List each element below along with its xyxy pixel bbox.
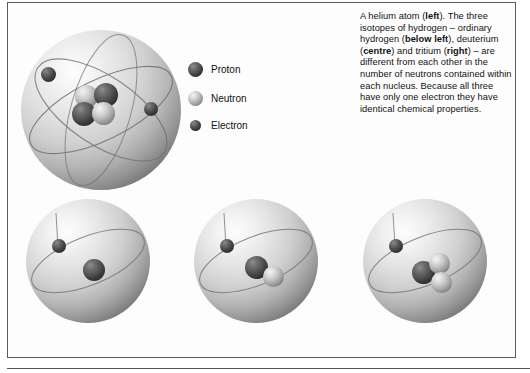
legend-item-electron: Electron <box>190 120 248 131</box>
deuterium-electron-1 <box>220 239 234 253</box>
figure-caption: A helium atom (left). The three isotopes… <box>360 11 512 115</box>
deuterium-neutron-1 <box>263 266 284 287</box>
electron-sphere-icon <box>190 120 201 131</box>
caption-seg-0: A helium atom ( <box>360 11 425 21</box>
helium-electron-2 <box>144 102 158 116</box>
deuterium-atom <box>194 199 318 323</box>
tritium-neutron-2 <box>431 272 452 293</box>
caption-seg-6: ) and tritium ( <box>391 46 446 56</box>
figure-page: A helium atom (left). The three isotopes… <box>0 0 530 373</box>
helium-electron-1 <box>41 67 56 82</box>
tritium-atom <box>363 199 487 323</box>
caption-seg-7-bold: right <box>447 46 468 56</box>
legend-label-proton: Proton <box>211 64 240 75</box>
hydrogen-atom <box>26 199 150 323</box>
bottom-rule <box>7 368 530 369</box>
tritium-neutron-1 <box>429 253 450 274</box>
legend-item-proton: Proton <box>188 62 240 77</box>
helium-atom <box>21 30 181 190</box>
caption-seg-5-bold: centre <box>363 46 391 56</box>
legend-label-neutron: Neutron <box>211 93 247 104</box>
hydrogen-proton-1 <box>83 259 105 281</box>
neutron-sphere-icon <box>188 91 203 106</box>
legend-item-neutron: Neutron <box>188 91 247 106</box>
caption-seg-1-bold: left <box>425 11 439 21</box>
tritium-electron-1 <box>389 239 403 253</box>
proton-sphere-icon <box>188 62 203 77</box>
figure-frame: A helium atom (left). The three isotopes… <box>7 2 516 358</box>
caption-seg-3-bold: below left <box>405 34 448 44</box>
hydrogen-electron-1 <box>52 239 66 253</box>
legend-label-electron: Electron <box>211 120 248 131</box>
helium-neutron-2 <box>92 102 115 125</box>
